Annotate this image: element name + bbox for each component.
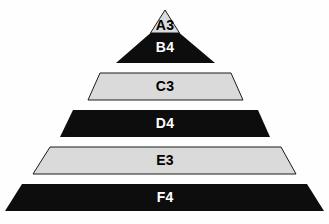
pyramid-tier-c3[interactable]: C3 [88,73,243,100]
pyramid-tier-label-e3: E3 [156,152,174,168]
pyramid-tier-label-d4: D4 [156,115,174,131]
pyramid-tier-d4[interactable]: D4 [60,110,270,137]
pyramid-tier-f4[interactable]: F4 [5,184,324,211]
pyramid-tier-label-a3: A3 [156,17,174,33]
pyramid-tier-label-f4: F4 [157,189,174,205]
pyramid-diagram: A3B4C3D4E3F4 [0,0,329,224]
pyramid-tier-label-b4: B4 [156,39,174,55]
pyramid-diagram-canvas: A3B4C3D4E3F4 [0,0,329,224]
pyramid-tier-label-c3: C3 [156,78,174,94]
pyramid-tier-e3[interactable]: E3 [33,147,296,174]
